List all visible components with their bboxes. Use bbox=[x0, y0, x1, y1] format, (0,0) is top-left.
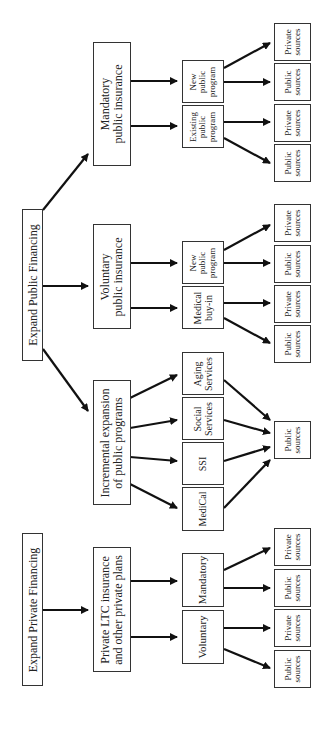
node-label: SSI bbox=[198, 456, 209, 470]
node-private-ltc-plans: Private LTC insurance and other private … bbox=[93, 547, 131, 672]
node-public-sources: Public sources bbox=[274, 63, 311, 101]
node-private-sources: Private sources bbox=[274, 609, 311, 647]
node-label: Private sources bbox=[283, 210, 302, 237]
node-private-sources: Private sources bbox=[274, 285, 311, 323]
node-private-sources: Private sources bbox=[274, 528, 311, 566]
node-incremental-expansion: Incremental expansion of public programs bbox=[93, 380, 131, 505]
node-label: Public sources bbox=[283, 656, 302, 683]
node-mandatory-public-insurance: Mandatory public insurance bbox=[93, 42, 131, 166]
node-label: Voluntary public insurance bbox=[99, 237, 124, 316]
root-label: Expand Private Financing bbox=[26, 547, 39, 672]
node-mandatory: Mandatory bbox=[182, 553, 224, 607]
node-new-public-program-voluntary: New public program bbox=[182, 241, 224, 284]
node-existing-public-program: Existing public program bbox=[182, 105, 224, 148]
node-label: Private sources bbox=[283, 291, 302, 318]
node-aging-services: Aging Services bbox=[182, 352, 224, 395]
node-label: Social Services bbox=[193, 402, 214, 436]
node-label: Private sources bbox=[283, 29, 302, 56]
node-label: Public sources bbox=[283, 427, 302, 454]
node-medical: MediCal bbox=[182, 487, 224, 531]
node-label: Incremental expansion of public programs bbox=[99, 388, 124, 497]
node-label: New public program bbox=[189, 66, 217, 97]
node-label: Medical buy-in bbox=[193, 291, 214, 324]
node-label: Private sources bbox=[283, 615, 302, 642]
node-public-sources: Public sources bbox=[274, 421, 311, 459]
node-label: Existing public program bbox=[189, 111, 217, 142]
node-private-sources: Private sources bbox=[274, 204, 311, 242]
node-new-public-program-mandatory: New public program bbox=[182, 60, 224, 103]
node-label: Public sources bbox=[283, 331, 302, 358]
node-voluntary: Voluntary bbox=[182, 610, 224, 664]
node-social-services: Social Services bbox=[182, 397, 224, 440]
node-public-sources: Public sources bbox=[274, 325, 311, 363]
node-label: Mandatory public insurance bbox=[99, 65, 124, 144]
node-label: Aging Services bbox=[193, 357, 214, 391]
node-label: Voluntary bbox=[197, 615, 209, 658]
node-label: Private LTC insurance and other private … bbox=[99, 555, 124, 665]
node-voluntary-public-insurance: Voluntary public insurance bbox=[93, 224, 131, 329]
node-public-sources: Public sources bbox=[274, 569, 311, 607]
node-label: Private sources bbox=[283, 110, 302, 137]
node-label: MediCal bbox=[198, 492, 209, 527]
node-public-sources: Public sources bbox=[274, 650, 311, 688]
node-public-sources: Public sources bbox=[274, 245, 311, 283]
node-label: Public sources bbox=[283, 150, 302, 177]
node-label: Private sources bbox=[283, 534, 302, 561]
node-medical-buy-in: Medical buy-in bbox=[182, 286, 224, 329]
root-expand-public-financing: Expand Public Financing bbox=[22, 209, 43, 361]
node-private-sources: Private sources bbox=[274, 23, 311, 61]
node-label: New public program bbox=[189, 247, 217, 278]
node-label: Mandatory bbox=[197, 556, 209, 604]
root-expand-private-financing: Expand Private Financing bbox=[22, 533, 43, 686]
root-label: Expand Public Financing bbox=[26, 224, 39, 345]
node-label: Public sources bbox=[283, 575, 302, 602]
node-ssi: SSI bbox=[182, 442, 224, 485]
node-public-sources: Public sources bbox=[274, 144, 311, 182]
node-label: Public sources bbox=[283, 69, 302, 96]
node-private-sources: Private sources bbox=[274, 104, 311, 142]
node-label: Public sources bbox=[283, 251, 302, 278]
